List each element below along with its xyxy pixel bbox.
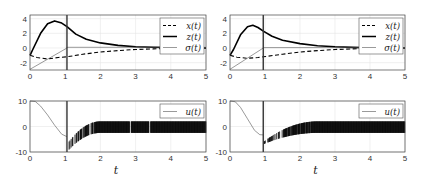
y-tick-label: 0 [23, 44, 28, 53]
x-tick-label: 2 [98, 72, 103, 81]
x-tick-label: 4 [169, 72, 174, 81]
x-tick-label: 2 [298, 154, 303, 163]
x-tick-label: 3 [333, 154, 338, 163]
chattering-band [264, 121, 405, 144]
legend: u(t) [359, 104, 403, 118]
x-tick-label: 4 [368, 72, 373, 81]
y-tick-label: 10 [18, 97, 27, 106]
x-tick-label: 3 [133, 154, 138, 163]
y-tick-label: -2 [220, 59, 228, 68]
x-tick-label: 2 [98, 154, 103, 163]
y-tick-label: 4 [223, 15, 228, 24]
legend: x(t)z(t)σ(t) [160, 18, 204, 54]
panel-top-right: 012345-2024x(t)z(t)σ(t) [220, 15, 408, 81]
legend-label-x(t): x(t) [186, 21, 201, 31]
x-tick-label: 3 [333, 72, 338, 81]
x-tick-label: 3 [133, 72, 138, 81]
x-tick-label: 1 [63, 154, 68, 163]
y-tick-label: -10 [15, 148, 27, 157]
legend-label-u(t): u(t) [384, 107, 400, 117]
x-tick-label: 0 [28, 72, 33, 81]
y-tick-label: 10 [218, 97, 227, 106]
x-tick-label: 1 [263, 154, 268, 163]
y-tick-label: 2 [23, 29, 28, 38]
x-tick-label: 0 [228, 72, 233, 81]
x-tick-label: 5 [403, 72, 408, 81]
series-u(t) [30, 101, 67, 137]
y-tick-label: 0 [223, 123, 228, 132]
x-tick-label: 5 [403, 154, 408, 163]
y-tick-label: 4 [23, 15, 28, 24]
x-tick-label: 5 [204, 154, 209, 163]
x-tick-label: 0 [28, 154, 33, 163]
y-tick-label: -10 [215, 148, 227, 157]
y-tick-label: 2 [223, 29, 228, 38]
y-tick-label: -2 [20, 59, 28, 68]
series-u(t) [230, 101, 263, 135]
panel-bottom-left: 012345-10010tu(t) [15, 97, 208, 177]
x-tick-label: 2 [298, 72, 303, 81]
x-axis-label: t [114, 164, 119, 177]
chattering-band [69, 121, 206, 149]
panel-top-left: 012345-2024x(t)z(t)σ(t) [20, 15, 209, 81]
x-tick-label: 1 [63, 72, 68, 81]
legend-label-x(t): x(t) [385, 21, 400, 31]
legend-label-sigma(t): σ(t) [384, 43, 400, 53]
legend-label-z(t): z(t) [185, 32, 201, 42]
x-tick-label: 5 [204, 72, 209, 81]
x-axis-label: t [313, 164, 318, 177]
panel-bottom-right: 012345-10010tu(t) [215, 97, 407, 177]
legend: u(t) [160, 104, 204, 118]
x-tick-label: 4 [169, 154, 174, 163]
x-tick-label: 0 [228, 154, 233, 163]
legend-label-u(t): u(t) [185, 107, 201, 117]
legend: x(t)z(t)σ(t) [359, 18, 403, 54]
y-tick-label: 0 [223, 44, 228, 53]
legend-label-sigma(t): σ(t) [185, 43, 201, 53]
y-tick-label: 0 [23, 123, 28, 132]
x-tick-label: 4 [368, 154, 373, 163]
figure: 012345-2024x(t)z(t)σ(t)012345-2024x(t)z(… [0, 0, 423, 181]
legend-label-z(t): z(t) [384, 32, 400, 42]
x-tick-label: 1 [263, 72, 268, 81]
